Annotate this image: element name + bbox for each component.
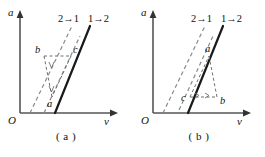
panel-caption-b: ( b ) (133, 130, 265, 142)
point-label-b-b: b (220, 95, 225, 106)
y-axis-label-b: a (141, 6, 147, 18)
point-label-c-b: c (181, 92, 186, 103)
origin-label-a: O (8, 114, 16, 126)
point-label-a-a: a (47, 98, 52, 109)
panel-caption-a: ( a ) (0, 130, 132, 142)
curve-label-2to1-a: 2→1 (58, 13, 79, 24)
curve-label-1to2-b: 1→2 (221, 13, 242, 24)
point-label-a-b: a (205, 43, 210, 54)
figure-container: a O v 2→1 1→2 b c a ( a ) (0, 0, 265, 157)
plot-b: a O v 2→1 1→2 a c b (133, 0, 265, 130)
curve-label-1to2-a: 1→2 (88, 13, 109, 24)
origin-label-b: O (141, 114, 149, 126)
curve-label-2to1-b: 2→1 (191, 13, 212, 24)
curve-1to2-a (55, 26, 90, 113)
panel-a: a O v 2→1 1→2 b c a ( a ) (0, 0, 132, 157)
plot-a: a O v 2→1 1→2 b c a (0, 0, 132, 130)
x-axis-label-b: v (237, 115, 242, 127)
triangle-abc-a (44, 56, 71, 97)
y-axis-label-a: a (8, 6, 14, 18)
point-label-c-a: c (73, 44, 78, 55)
panel-b: a O v 2→1 1→2 a c b ( b ) (133, 0, 265, 157)
curve-1to2-b (188, 26, 223, 113)
point-label-b-a: b (35, 44, 40, 55)
x-axis-label-a: v (104, 115, 109, 127)
